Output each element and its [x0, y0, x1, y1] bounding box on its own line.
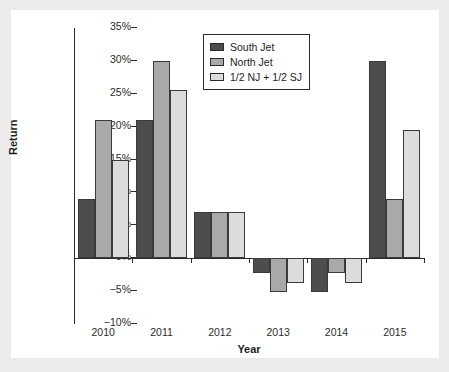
- legend-swatch: [210, 58, 224, 66]
- bar: [270, 258, 287, 292]
- y-axis-tick-mark: [131, 290, 137, 291]
- bar: [78, 199, 95, 258]
- bar: [369, 61, 386, 258]
- x-axis-tick-mark: [307, 258, 308, 263]
- bar: [228, 212, 245, 258]
- x-axis-tick-mark: [249, 258, 250, 263]
- bar: [311, 258, 328, 292]
- bar: [153, 61, 170, 258]
- y-axis-title: Return: [7, 120, 19, 155]
- page-background: Return 35%30%25%20%15%10%5%0%−5%−10% Yea…: [0, 0, 449, 372]
- bar: [403, 130, 420, 258]
- bar: [211, 212, 228, 258]
- x-axis-tick-label: 2015: [367, 326, 423, 338]
- chart-legend: South JetNorth Jet1/2 NJ + 1/2 SJ: [203, 34, 310, 90]
- legend-swatch: [210, 73, 224, 81]
- bar: [328, 258, 345, 272]
- legend-label: North Jet: [230, 56, 273, 68]
- bar-chart-figure: Return 35%30%25%20%15%10%5%0%−5%−10% Yea…: [11, 10, 439, 358]
- y-axis-tick-label: 30%: [74, 53, 131, 65]
- bar: [253, 258, 270, 272]
- bar: [95, 120, 112, 258]
- legend-label: South Jet: [230, 41, 274, 53]
- legend-item: North Jet: [210, 54, 302, 69]
- y-axis-tick-label: 35%: [74, 20, 131, 32]
- x-axis-tick-mark: [132, 258, 133, 263]
- x-axis-tick-label: 2011: [134, 326, 190, 338]
- bar: [136, 120, 153, 258]
- legend-item: 1/2 NJ + 1/2 SJ: [210, 69, 302, 84]
- bar: [287, 258, 304, 282]
- y-axis-tick-mark: [131, 323, 137, 324]
- x-axis-tick-label: 2010: [75, 326, 131, 338]
- bar: [112, 160, 129, 259]
- bar: [345, 258, 362, 282]
- figure-panel: Return 35%30%25%20%15%10%5%0%−5%−10% Yea…: [11, 10, 439, 358]
- x-axis-tick-label: 2013: [250, 326, 306, 338]
- x-axis-tick-mark: [366, 258, 367, 263]
- x-axis-tick-mark: [74, 258, 75, 263]
- bar: [170, 90, 187, 258]
- x-axis-tick-label: 2012: [192, 326, 248, 338]
- y-axis-tick-mark: [131, 93, 137, 94]
- legend-swatch: [210, 43, 224, 51]
- bar: [386, 199, 403, 258]
- bar: [194, 212, 211, 258]
- y-axis-tick-label: −5%: [74, 283, 131, 295]
- x-axis-tick-label: 2014: [309, 326, 365, 338]
- x-axis-tick-mark: [424, 258, 425, 263]
- y-axis-tick-mark: [131, 27, 137, 28]
- legend-label: 1/2 NJ + 1/2 SJ: [230, 71, 302, 83]
- x-axis-tick-mark: [191, 258, 192, 263]
- legend-item: South Jet: [210, 39, 302, 54]
- y-axis-tick-label: 25%: [74, 86, 131, 98]
- x-axis-title: Year: [74, 343, 424, 355]
- y-axis-tick-mark: [131, 60, 137, 61]
